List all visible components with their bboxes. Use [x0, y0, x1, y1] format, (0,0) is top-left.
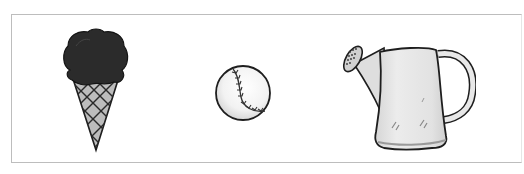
ice-cream-cone-illustration: ice cream cone: [60, 26, 140, 154]
watering-can-icon: [336, 38, 476, 156]
ball-illustration: ball: [213, 63, 273, 123]
watering-can-illustration: watering can: [336, 38, 476, 156]
ball-icon: [213, 63, 273, 123]
ice-cream-icon: [60, 26, 140, 154]
